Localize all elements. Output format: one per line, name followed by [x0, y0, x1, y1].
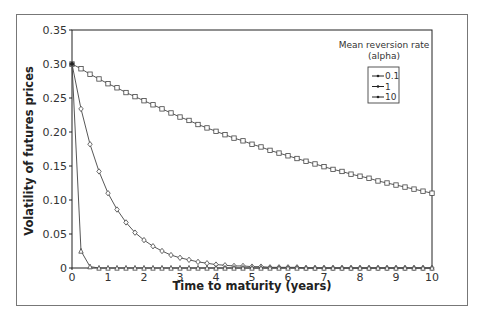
y-axis-ticks: 00.050.100.150.200.250.300.35 — [43, 24, 73, 275]
x-tick-label: 0 — [69, 271, 76, 284]
y-tick-label: 0.10 — [43, 194, 68, 207]
legend-label: 1 — [385, 82, 391, 92]
x-tick-label: 2 — [141, 271, 148, 284]
y-tick-label: 0.30 — [43, 58, 68, 71]
x-tick-label: 1 — [105, 271, 112, 284]
y-tick-label: 0.20 — [43, 126, 68, 139]
legend-title: Mean reversion rate — [339, 40, 430, 50]
y-tick-label: 0.05 — [43, 228, 68, 241]
plot-area — [72, 30, 432, 268]
y-tick-label: 0.35 — [43, 24, 68, 37]
legend: Mean reversion rate (alpha) 0.1110 — [339, 40, 430, 103]
y-axis-title: Volatility of futures prices — [22, 66, 36, 236]
y-tick-label: 0.15 — [43, 160, 68, 173]
y-tick-label: 0.25 — [43, 92, 68, 105]
legend-label: 0.1 — [385, 71, 399, 81]
y-tick-label: 0 — [60, 262, 67, 275]
x-tick-label: 9 — [393, 271, 400, 284]
plot-border — [72, 30, 432, 268]
line-chart: 00.050.100.150.200.250.300.35 0123456789… — [0, 0, 484, 321]
legend-label: 10 — [385, 92, 397, 102]
x-axis-title: Time to maturity (years) — [172, 279, 331, 293]
x-tick-label: 10 — [425, 271, 439, 284]
legend-subtitle: (alpha) — [368, 51, 400, 61]
x-tick-label: 8 — [357, 271, 364, 284]
